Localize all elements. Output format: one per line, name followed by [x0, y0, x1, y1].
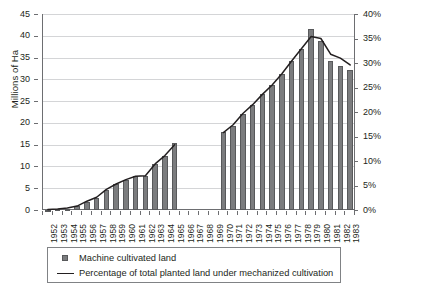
x-axis-tick: [247, 211, 248, 215]
x-axis-tick: [198, 211, 199, 215]
x-axis-tick-label: 1960: [128, 224, 137, 243]
x-axis-tick: [227, 211, 228, 215]
x-axis-tick-label: 1982: [343, 224, 352, 243]
x-axis-tick-label: 1955: [79, 224, 88, 243]
x-axis-tick-label: 1956: [89, 224, 98, 243]
x-axis-tick-label: 1963: [157, 224, 166, 243]
y-axis-right-tick-label: 5%: [363, 181, 376, 190]
y-axis-right-tick: [354, 137, 358, 138]
x-axis-tick-label: 1971: [235, 224, 244, 243]
x-axis-tick-label: 1970: [226, 224, 235, 243]
x-axis-tick: [305, 211, 306, 215]
x-axis-tick: [208, 211, 209, 215]
x-axis-tick-label: 1967: [196, 224, 205, 243]
y-axis-right-tick-label: 40%: [363, 10, 381, 19]
x-axis-tick: [286, 211, 287, 215]
legend-square-icon: [62, 255, 68, 261]
y-axis-right-tick-label: 30%: [363, 59, 381, 68]
x-axis-tick: [179, 211, 180, 215]
y-axis-right-tick: [354, 14, 358, 15]
x-axis-tick-label: 1962: [148, 224, 157, 243]
x-axis-tick-label: 1977: [294, 224, 303, 243]
x-axis-tick: [188, 211, 189, 215]
x-axis-tick: [52, 211, 53, 215]
y-axis-left-tick: [34, 58, 38, 59]
x-axis-tick-label: 1957: [99, 224, 108, 243]
line-path: [48, 145, 175, 210]
x-axis-tick-label: 1980: [323, 224, 332, 243]
y-axis-right-labels: 0%5%10%15%20%25%30%35%40%: [361, 14, 401, 210]
y-axis-right-tick-label: 35%: [363, 34, 381, 43]
x-axis-tick-label: 1965: [177, 224, 186, 243]
x-axis-tick-label: 1981: [333, 224, 342, 243]
y-axis-right-tick: [354, 88, 358, 89]
x-axis-tick: [42, 211, 43, 215]
y-axis-left-tick: [34, 79, 38, 80]
y-axis-left-tick: [34, 123, 38, 124]
x-axis-tick-label: 1952: [50, 224, 59, 243]
chart-legend: Machine cultivated land Percentage of to…: [47, 247, 341, 283]
y-axis-left-tick: [34, 101, 38, 102]
y-axis-left-tick-label: 5: [25, 184, 30, 193]
line-series: [43, 14, 355, 210]
y-axis-right-tick-label: 10%: [363, 157, 381, 166]
y-axis-right-tick-label: 0%: [363, 206, 376, 215]
x-axis-tick: [237, 211, 238, 215]
legend-item-line: Percentage of total planted land under m…: [57, 266, 333, 280]
y-axis-left-tick-label: 15: [20, 140, 30, 149]
x-axis-tick-label: 1978: [304, 224, 313, 243]
x-axis-tick-label: 1969: [216, 224, 225, 243]
y-axis-right-tick: [354, 161, 358, 162]
x-axis-tick: [140, 211, 141, 215]
chart-figure: Millions of Ha 051015202530354045 0%5%10…: [0, 0, 426, 292]
x-axis-tick-label: 1976: [284, 224, 293, 243]
y-axis-left-tick-label: 35: [20, 53, 30, 62]
y-axis-left-tick-label: 10: [20, 162, 30, 171]
x-axis-tick: [120, 211, 121, 215]
y-axis-left-labels: 051015202530354045: [14, 14, 38, 210]
x-axis-tick-label: 1972: [245, 224, 254, 243]
x-axis-tick: [344, 211, 345, 215]
plot-area: [42, 14, 354, 210]
x-axis-tick-label: 1975: [274, 224, 283, 243]
y-axis-left-tick: [34, 188, 38, 189]
x-axis-tick: [296, 211, 297, 215]
x-axis-tick: [71, 211, 72, 215]
line-path: [223, 37, 350, 133]
y-axis-left-tick: [34, 145, 38, 146]
x-axis-tick: [276, 211, 277, 215]
y-axis-left-tick: [34, 166, 38, 167]
legend-label-line: Percentage of total planted land under m…: [79, 268, 333, 278]
legend-line-icon: [57, 273, 74, 274]
x-axis-tick-label: 1968: [206, 224, 215, 243]
y-axis-right-tick-label: 20%: [363, 108, 381, 117]
y-axis-left-tick-label: 25: [20, 97, 30, 106]
y-axis-left-tick: [34, 14, 38, 15]
x-axis-tick-label: 1966: [187, 224, 196, 243]
x-axis-tick: [354, 211, 355, 215]
x-axis-tick: [130, 211, 131, 215]
y-axis-left-tick-label: 40: [20, 31, 30, 40]
x-axis-labels: 1952195319541955195619571958195919601961…: [42, 216, 355, 246]
x-axis-tick-label: 1954: [70, 224, 79, 243]
x-axis-tick: [81, 211, 82, 215]
y-axis-left-tick-label: 0: [25, 206, 30, 215]
x-axis-tick: [257, 211, 258, 215]
legend-item-bar: Machine cultivated land: [57, 251, 176, 265]
x-axis-tick-label: 1953: [60, 224, 69, 243]
x-axis-tick: [335, 211, 336, 215]
y-axis-right-tick-label: 25%: [363, 83, 381, 92]
x-axis-tick-label: 1983: [352, 224, 361, 243]
x-axis-tick-label: 1973: [255, 224, 264, 243]
x-axis-tick-label: 1961: [138, 224, 147, 243]
x-axis-tick: [169, 211, 170, 215]
x-axis-tick-label: 1979: [313, 224, 322, 243]
x-axis-tick: [315, 211, 316, 215]
legend-label-bar: Machine cultivated land: [79, 253, 176, 263]
y-axis-right-tick: [354, 39, 358, 40]
y-axis-left-tick: [34, 36, 38, 37]
y-axis-right-tick: [354, 186, 358, 187]
y-axis-left-tick-label: 30: [20, 75, 30, 84]
x-axis-tick: [266, 211, 267, 215]
x-axis-tick: [110, 211, 111, 215]
